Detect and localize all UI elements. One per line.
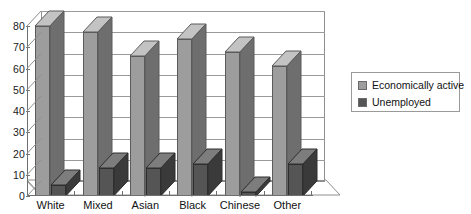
bar-other-unemployed — [288, 164, 303, 196]
bar-front-face — [35, 26, 50, 196]
x-axis-tick-label: Other — [252, 197, 322, 213]
y-axis-tick-mark — [26, 90, 30, 91]
bar-front-face — [146, 168, 161, 196]
x-axis-tick-mark — [169, 191, 170, 196]
x-axis-labels: WhiteMixedAsianBlackChineseOther — [0, 197, 471, 214]
bar-white-economically-active — [35, 26, 50, 196]
y-axis-tick-label: 60 — [1, 64, 25, 74]
bar-mixed-economically-active — [83, 32, 98, 196]
bar-front-face — [177, 39, 192, 196]
y-axis-tick-label: 80 — [1, 21, 25, 31]
bar-front-face — [225, 52, 240, 197]
legend-item-unemployed: Unemployed — [358, 94, 454, 110]
bar-asian-economically-active — [130, 56, 145, 196]
bar-front-face — [83, 32, 98, 196]
y-axis-labels: 01020304050607080 — [0, 0, 25, 214]
y-axis-tick-label: 20 — [1, 149, 25, 159]
y-axis-tick-mark — [26, 111, 30, 112]
bar-front-face — [288, 164, 303, 196]
bar-front-face — [193, 164, 208, 196]
x-axis-tick-mark — [311, 191, 312, 196]
x-axis-tick-mark — [74, 191, 75, 196]
bar-front-face — [272, 66, 287, 196]
bar-black-unemployed — [193, 164, 208, 196]
bar-black-economically-active — [177, 39, 192, 196]
y-axis-tick-mark — [26, 47, 30, 48]
x-axis-tick-mark — [216, 191, 217, 196]
x-axis-tick-mark — [122, 191, 123, 196]
bar-chart: 01020304050607080 WhiteMixedAsianBlackCh… — [0, 0, 471, 214]
bar-chinese-economically-active — [225, 52, 240, 197]
y-axis-tick-mark — [26, 175, 30, 176]
legend-swatch-economically-active — [358, 81, 367, 90]
legend-swatch-unemployed — [358, 98, 367, 107]
chart-legend: Economically active Unemployed — [351, 72, 460, 112]
y-axis-tick-mark — [26, 26, 30, 27]
legend-item-economically-active: Economically active — [358, 77, 454, 93]
y-axis-tick-mark — [26, 132, 30, 133]
bar-asian-unemployed — [146, 168, 161, 196]
bar-other-economically-active — [272, 66, 287, 196]
legend-label-economically-active: Economically active — [372, 80, 464, 91]
x-axis-line — [27, 195, 313, 196]
y-axis-tick-label: 30 — [1, 127, 25, 137]
y-axis-tick-mark — [26, 69, 30, 70]
y-axis-tick-mark — [26, 154, 30, 155]
y-axis-tick-label: 10 — [1, 170, 25, 180]
bar-front-face — [130, 56, 145, 196]
y-axis-tick-label: 50 — [1, 85, 25, 95]
bar-front-face — [99, 168, 114, 196]
x-axis-tick-mark — [27, 191, 28, 196]
y-axis-tick-label: 70 — [1, 42, 25, 52]
y-axis-tick-label: 40 — [1, 106, 25, 116]
x-axis-tick-mark — [264, 191, 265, 196]
bar-mixed-unemployed — [99, 168, 114, 196]
legend-label-unemployed: Unemployed — [372, 97, 431, 108]
